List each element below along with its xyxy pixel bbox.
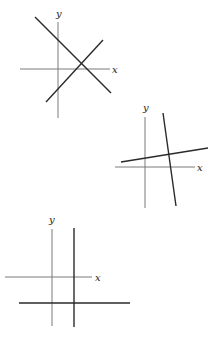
graph-3-y-label: y xyxy=(48,214,55,225)
graph-2-x-label: x xyxy=(197,162,203,173)
figure-canvas: y x y x y x xyxy=(0,0,218,342)
graph-1: y x xyxy=(20,8,118,118)
graph-1-x-label: x xyxy=(112,64,118,75)
graph-1-descending-line xyxy=(35,17,111,93)
graph-2-steep-line xyxy=(163,113,176,206)
graph-1-y-label: y xyxy=(55,8,62,19)
graph-2-y-label: y xyxy=(142,102,149,113)
graph-2-shallow-line xyxy=(121,148,208,162)
graph-3-x-label: x xyxy=(95,272,101,283)
graph-1-ascending-line xyxy=(46,40,103,102)
graph-3: y x xyxy=(5,214,130,327)
graph-2: y x xyxy=(115,102,208,208)
